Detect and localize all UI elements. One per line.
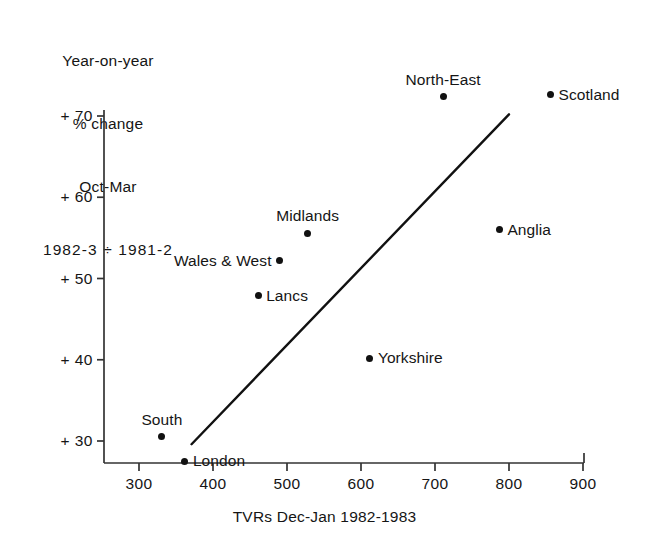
data-point-label: London xyxy=(193,452,245,470)
x-tick-label: 700 xyxy=(421,475,448,493)
chart-axes xyxy=(0,0,649,550)
data-point-label: Midlands xyxy=(276,207,339,225)
y-tick-label: + 30 xyxy=(60,432,93,450)
x-tick-label: 900 xyxy=(569,475,596,493)
data-point-marker xyxy=(366,355,373,362)
x-tick-label: 400 xyxy=(199,475,226,493)
y-tick-label: + 50 xyxy=(60,270,93,288)
data-point-label: Lancs xyxy=(266,287,308,305)
data-point-label: Wales & West xyxy=(174,252,272,270)
x-tick-label: 300 xyxy=(125,475,152,493)
data-point-label: Scotland xyxy=(558,86,619,104)
data-point-marker xyxy=(304,230,311,237)
data-point-label: Anglia xyxy=(507,221,551,239)
y-tick-label: + 40 xyxy=(60,351,93,369)
data-point-label: North-East xyxy=(406,71,481,89)
scatter-chart-figure: Year-on-year % change Oct-Mar 1982-3 ÷ 1… xyxy=(0,0,649,550)
x-tick-label: 800 xyxy=(495,475,522,493)
x-tick-label: 500 xyxy=(273,475,300,493)
y-tick-label: + 60 xyxy=(60,188,93,206)
data-point-marker xyxy=(255,292,262,299)
data-point-label: South xyxy=(141,411,182,429)
x-axis-title: TVRs Dec-Jan 1982-1983 xyxy=(0,508,649,526)
x-tick-label: 600 xyxy=(347,475,374,493)
data-point-marker xyxy=(440,93,447,100)
y-tick-label: + 70 xyxy=(60,107,93,125)
data-point-label: Yorkshire xyxy=(378,349,443,367)
